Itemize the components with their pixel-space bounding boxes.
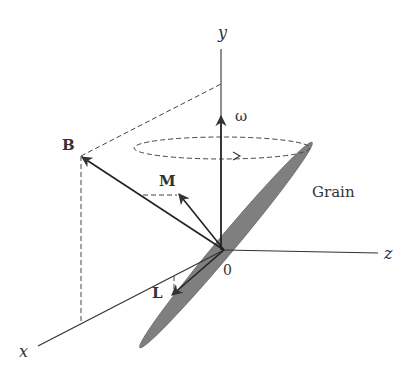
precession-ellipse	[134, 137, 310, 159]
y-axis-label: y	[217, 23, 228, 42]
b-to-y-dashed	[81, 84, 221, 156]
x-axis-label: x	[19, 342, 28, 361]
vectors	[82, 116, 224, 295]
l-label: L	[152, 284, 163, 302]
m-vector	[179, 194, 224, 250]
z-axis	[224, 250, 378, 253]
omega-label: ω	[235, 107, 247, 125]
grain-label: Grain	[312, 183, 355, 201]
m-label: M	[159, 172, 176, 190]
origin-label: 0	[223, 262, 232, 278]
x-axis	[38, 250, 224, 346]
grain-ellipse	[133, 137, 319, 354]
b-label: B	[62, 136, 75, 154]
grain-rotation-diagram: y z x 0 ω B M L Grain	[0, 0, 407, 379]
b-vector	[82, 157, 224, 250]
z-axis-label: z	[383, 244, 393, 263]
